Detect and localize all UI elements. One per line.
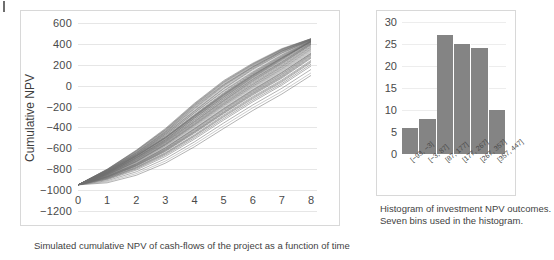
caption-line-2: Seven bins used in the histogram. [380, 215, 551, 227]
y-tick-label: −1200 [40, 205, 72, 217]
histogram-bar [471, 48, 488, 154]
y-tick-label: −600 [46, 142, 72, 154]
left-chart-caption: Simulated cumulative NPV of cash-flows o… [34, 240, 350, 251]
gridline [78, 211, 317, 212]
gridline [402, 22, 506, 23]
y-tick-label: 600 [53, 17, 72, 29]
y-tick-label: 0 [391, 148, 397, 160]
y-tick-label: 15 [385, 82, 397, 94]
left-plot-area: 6004002000−200−400−600−800−1000−1200 012… [78, 23, 311, 211]
y-tick-label: 200 [53, 59, 72, 71]
y-tick-label: −400 [46, 121, 72, 133]
y-tick-label: −800 [46, 163, 72, 175]
simulation-paths [78, 23, 311, 211]
simulation-path [78, 42, 311, 185]
npv-histogram-panel: 302520151050 [−93, −3][−3, 87][87, 177][… [376, 10, 516, 196]
histogram-bar [454, 44, 471, 154]
caption-line-1: Histogram of investment NPV outcomes. [380, 203, 551, 215]
histogram-plot-area: 302520151050 [−93, −3][−3, 87][87, 177][… [402, 22, 506, 154]
right-chart-caption: Histogram of investment NPV outcomes. Se… [380, 203, 551, 227]
y-tick-label: 5 [391, 126, 397, 138]
y-tick-label: 10 [385, 104, 397, 116]
y-tick-label: −200 [46, 101, 72, 113]
y-axis-title: Cumulative NPV [23, 74, 37, 162]
figure-page: Cumulative NPV 6004002000−200−400−600−80… [0, 0, 554, 260]
histogram-bar [437, 35, 454, 154]
y-tick-label: −1000 [40, 184, 72, 196]
y-tick-label: 0 [66, 80, 72, 92]
y-tick-label: 20 [385, 60, 397, 72]
y-tick-label: 25 [385, 38, 397, 50]
page-corner-mark [3, 1, 5, 12]
cumulative-npv-chart-panel: Cumulative NPV 6004002000−200−400−600−80… [20, 10, 340, 226]
y-tick-label: 30 [385, 16, 397, 28]
y-tick-label: 400 [53, 38, 72, 50]
